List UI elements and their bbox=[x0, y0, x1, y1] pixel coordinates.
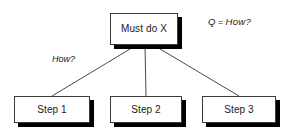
node-step-1[interactable]: Step 1 bbox=[14, 96, 90, 123]
legend-note: Q=How? bbox=[208, 17, 251, 27]
node-step-1-label: Step 1 bbox=[37, 105, 67, 115]
edge-label-how: How? bbox=[52, 55, 75, 64]
node-step-2[interactable]: Step 2 bbox=[110, 96, 182, 123]
connector-root-to-step-2 bbox=[145, 46, 146, 96]
legend-symbol: Q bbox=[208, 16, 216, 27]
node-step-3-label: Step 3 bbox=[224, 105, 254, 115]
connector-root-to-step-3 bbox=[155, 46, 239, 96]
node-step-3[interactable]: Step 3 bbox=[202, 96, 276, 123]
legend-meaning: How? bbox=[226, 16, 252, 27]
diagram-canvas: Must do X Step 1 Step 2 Step 3 How? Q=Ho… bbox=[0, 0, 289, 135]
legend-equals: = bbox=[216, 16, 226, 27]
node-must-do-x[interactable]: Must do X bbox=[110, 13, 178, 45]
node-step-2-label: Step 2 bbox=[131, 105, 161, 115]
node-must-do-x-label: Must do X bbox=[121, 24, 167, 34]
